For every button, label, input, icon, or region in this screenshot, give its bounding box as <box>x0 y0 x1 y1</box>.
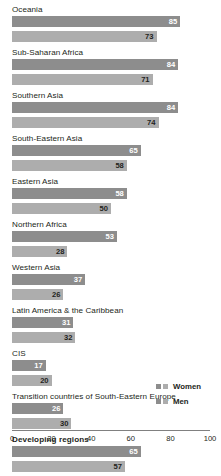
chart-group: Sub-Saharan Africa8471 <box>0 47 221 90</box>
bar-women[interactable]: 65 <box>12 446 141 457</box>
bar-value-label: 32 <box>64 332 72 343</box>
bar-value-label: 65 <box>129 145 137 156</box>
bar-row-men: 30 <box>0 418 221 429</box>
chart-group: Southern Asia8474 <box>0 90 221 133</box>
bar-row-men: 74 <box>0 117 221 128</box>
chart-group: Northern Africa5328 <box>0 219 221 262</box>
category-label: Latin America & the Caribbean <box>0 305 221 316</box>
bar-value-label: 84 <box>167 59 175 70</box>
bar-value-label: 53 <box>105 231 113 242</box>
bar-value-label: 31 <box>62 317 70 328</box>
bar-row-men: 58 <box>0 160 221 171</box>
legend-item-men[interactable]: Men <box>156 396 201 407</box>
bar-women[interactable]: 17 <box>12 360 46 371</box>
legend-label: Women <box>173 381 201 392</box>
bar-women[interactable]: 65 <box>12 145 141 156</box>
category-label: South-Eastern Asia <box>0 133 221 144</box>
legend-swatch-icon <box>156 399 161 404</box>
chart-group: Developing regions6557 <box>0 434 221 476</box>
bar-row-women: 84 <box>0 59 221 70</box>
bar-women[interactable]: 58 <box>12 188 127 199</box>
category-label: Southern Asia <box>0 90 221 101</box>
bar-women[interactable]: 37 <box>12 274 85 285</box>
bar-value-label: 71 <box>141 74 149 85</box>
bar-row-men: 50 <box>0 203 221 214</box>
bar-value-label: 58 <box>115 160 123 171</box>
bar-women[interactable]: 31 <box>12 317 73 328</box>
bar-row-men: 26 <box>0 289 221 300</box>
category-label: Western Asia <box>0 262 221 273</box>
bar-men[interactable]: 74 <box>12 117 159 128</box>
bar-value-label: 26 <box>52 289 60 300</box>
x-axis-line <box>12 430 210 431</box>
bar-men[interactable]: 50 <box>12 203 111 214</box>
bar-row-women: 85 <box>0 16 221 27</box>
chart-group: Western Asia3726 <box>0 262 221 305</box>
legend-swatch-icon <box>163 399 168 404</box>
legend-swatch-icon <box>163 384 168 389</box>
x-axis-tick-label: 0 <box>10 434 14 443</box>
chart-legend: WomenMen <box>156 381 201 411</box>
bar-men[interactable]: 32 <box>12 332 75 343</box>
bar-row-men: 57 <box>0 461 221 472</box>
category-label: Developing regions <box>0 434 221 445</box>
bar-value-label: 17 <box>34 360 42 371</box>
bar-row-women: 31 <box>0 317 221 328</box>
bar-row-women: 37 <box>0 274 221 285</box>
bar-women[interactable]: 53 <box>12 231 117 242</box>
bar-row-women: 53 <box>0 231 221 242</box>
bar-value-label: 28 <box>56 246 64 257</box>
bar-row-women: 84 <box>0 102 221 113</box>
bar-row-women: 65 <box>0 145 221 156</box>
bar-value-label: 20 <box>40 375 48 386</box>
bar-women[interactable]: 85 <box>12 16 180 27</box>
x-axis-tick-label: 60 <box>127 434 135 443</box>
chart-group: Latin America & the Caribbean3132 <box>0 305 221 348</box>
bar-men[interactable]: 30 <box>12 418 71 429</box>
bar-value-label: 37 <box>74 274 82 285</box>
bar-value-label: 74 <box>147 117 155 128</box>
x-axis-tick-label: 80 <box>166 434 174 443</box>
bar-value-label: 26 <box>52 403 60 414</box>
bar-row-men: 71 <box>0 74 221 85</box>
bar-value-label: 84 <box>167 102 175 113</box>
bar-row-men: 73 <box>0 31 221 42</box>
legend-label: Men <box>173 396 189 407</box>
bar-men[interactable]: 57 <box>12 461 125 472</box>
legend-swatch-icon <box>156 384 161 389</box>
chart-group: South-Eastern Asia6558 <box>0 133 221 176</box>
bar-row-men: 28 <box>0 246 221 257</box>
bar-men[interactable]: 20 <box>12 375 52 386</box>
bar-men[interactable]: 71 <box>12 74 153 85</box>
category-label: Eastern Asia <box>0 176 221 187</box>
x-axis-tick-label: 100 <box>204 434 217 443</box>
bar-value-label: 57 <box>113 461 121 472</box>
category-label: Northern Africa <box>0 219 221 230</box>
bar-value-label: 58 <box>115 188 123 199</box>
x-axis-tick-label: 20 <box>47 434 55 443</box>
bar-row-women: 65 <box>0 446 221 457</box>
bar-women[interactable]: 84 <box>12 102 178 113</box>
chart-group: Oceania8573 <box>0 4 221 47</box>
x-axis-tick-label: 40 <box>87 434 95 443</box>
bar-value-label: 50 <box>100 203 108 214</box>
bar-value-label: 65 <box>129 446 137 457</box>
bar-row-women: 17 <box>0 360 221 371</box>
bar-value-label: 85 <box>169 16 177 27</box>
bar-men[interactable]: 28 <box>12 246 67 257</box>
bar-women[interactable]: 84 <box>12 59 178 70</box>
category-label: Sub-Saharan Africa <box>0 47 221 58</box>
bar-men[interactable]: 26 <box>12 289 63 300</box>
bar-value-label: 73 <box>145 31 153 42</box>
category-label: Oceania <box>0 4 221 15</box>
bar-men[interactable]: 73 <box>12 31 157 42</box>
bar-men[interactable]: 58 <box>12 160 127 171</box>
chart-group: Eastern Asia5850 <box>0 176 221 219</box>
category-label: CIS <box>0 348 221 359</box>
bar-women[interactable]: 26 <box>12 403 63 414</box>
legend-item-women[interactable]: Women <box>156 381 201 392</box>
bar-row-women: 58 <box>0 188 221 199</box>
bar-value-label: 30 <box>60 418 68 429</box>
bar-row-men: 32 <box>0 332 221 343</box>
